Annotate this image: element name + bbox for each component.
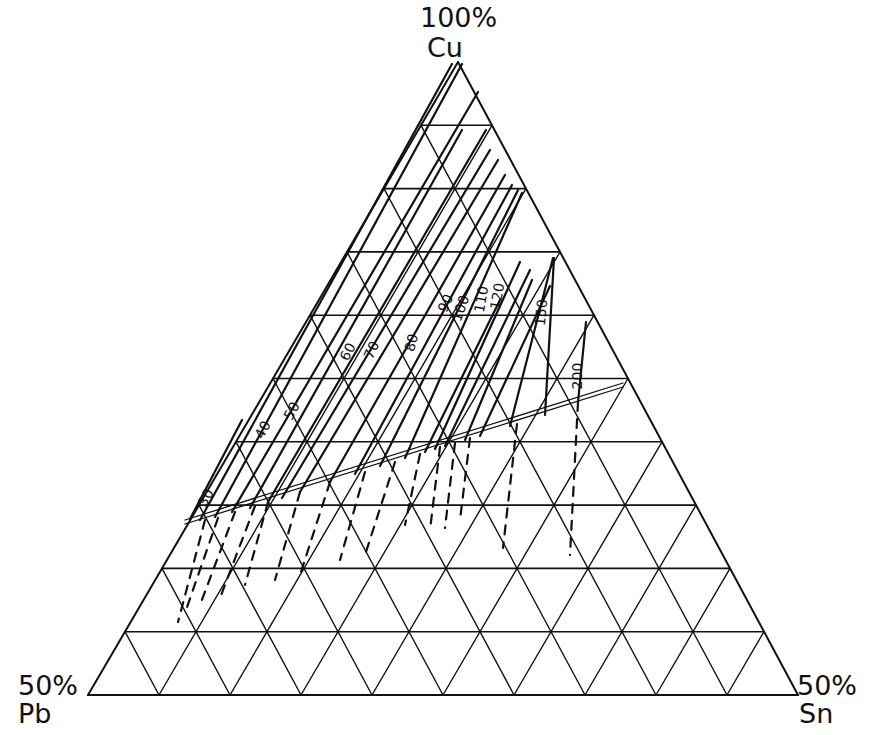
isoline-solid <box>250 130 462 508</box>
isoline-dashed <box>300 482 330 575</box>
isoline-label: 200 <box>569 363 585 390</box>
isoline-solid <box>200 64 452 520</box>
isoline-label: 120 <box>487 282 507 311</box>
grid-line-ascending <box>301 252 560 695</box>
top-vertex-percent: 100% <box>420 4 497 31</box>
isoline-dashed <box>445 443 455 528</box>
top-vertex-element: Cu <box>427 34 463 61</box>
isoline-dashed <box>200 512 235 605</box>
bottom-left-vertex-percent: 50% <box>18 672 78 699</box>
ternary-diagram: 30405060708090100110120150200 100% Cu 50… <box>0 0 869 735</box>
isoline-dashed <box>220 506 255 598</box>
isoline-solid <box>330 175 505 482</box>
bottom-right-vertex-element: Sn <box>799 700 833 727</box>
bottom-left-vertex-element: Pb <box>18 700 51 727</box>
grid-line-ascending <box>727 632 764 695</box>
grid-line-descending <box>125 632 159 695</box>
ternary-plot-canvas: 30405060708090100110120150200 <box>0 0 869 735</box>
solid-isolines <box>190 64 586 520</box>
double-line-lower <box>185 387 623 524</box>
grid-line-descending <box>273 379 443 696</box>
isoline-label: 80 <box>401 332 421 353</box>
bottom-right-vertex-percent: 50% <box>797 672 857 699</box>
dashed-isolines <box>178 402 578 622</box>
isoline-dashed <box>570 402 578 555</box>
isoline-label: 150 <box>532 299 550 327</box>
isoline-solid <box>380 190 518 466</box>
isoline-dashed <box>503 424 517 548</box>
